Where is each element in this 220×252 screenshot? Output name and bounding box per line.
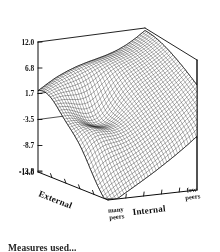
z-tick-label: 12.0 xyxy=(21,38,34,47)
few-peers-label-line2: peers xyxy=(185,192,201,201)
many-peers-label-line2: peers xyxy=(109,212,125,221)
y-axis-label: Internal xyxy=(132,203,166,217)
few-peers-label: few peers xyxy=(185,185,201,200)
z-tick-label: -14.0 xyxy=(19,168,34,177)
z-tick-label: -3.5 xyxy=(23,115,35,124)
z-tick-label: 1.7 xyxy=(25,89,34,98)
z-tick-label: -8.7 xyxy=(23,141,35,150)
many-peers-label: many peers xyxy=(108,205,125,221)
surface-mesh xyxy=(38,31,215,200)
y-axis-label-group: Internal xyxy=(132,203,166,217)
x-axis-label-group: External xyxy=(37,189,74,211)
x-axis-label: External xyxy=(37,189,74,211)
z-tick-label: 6.8 xyxy=(25,64,34,73)
figure-caption: Measures used... xyxy=(8,243,214,252)
z-axis-tick-labels: 12.06.81.7-3.5-8.7-13.8-14.0 xyxy=(19,38,34,177)
